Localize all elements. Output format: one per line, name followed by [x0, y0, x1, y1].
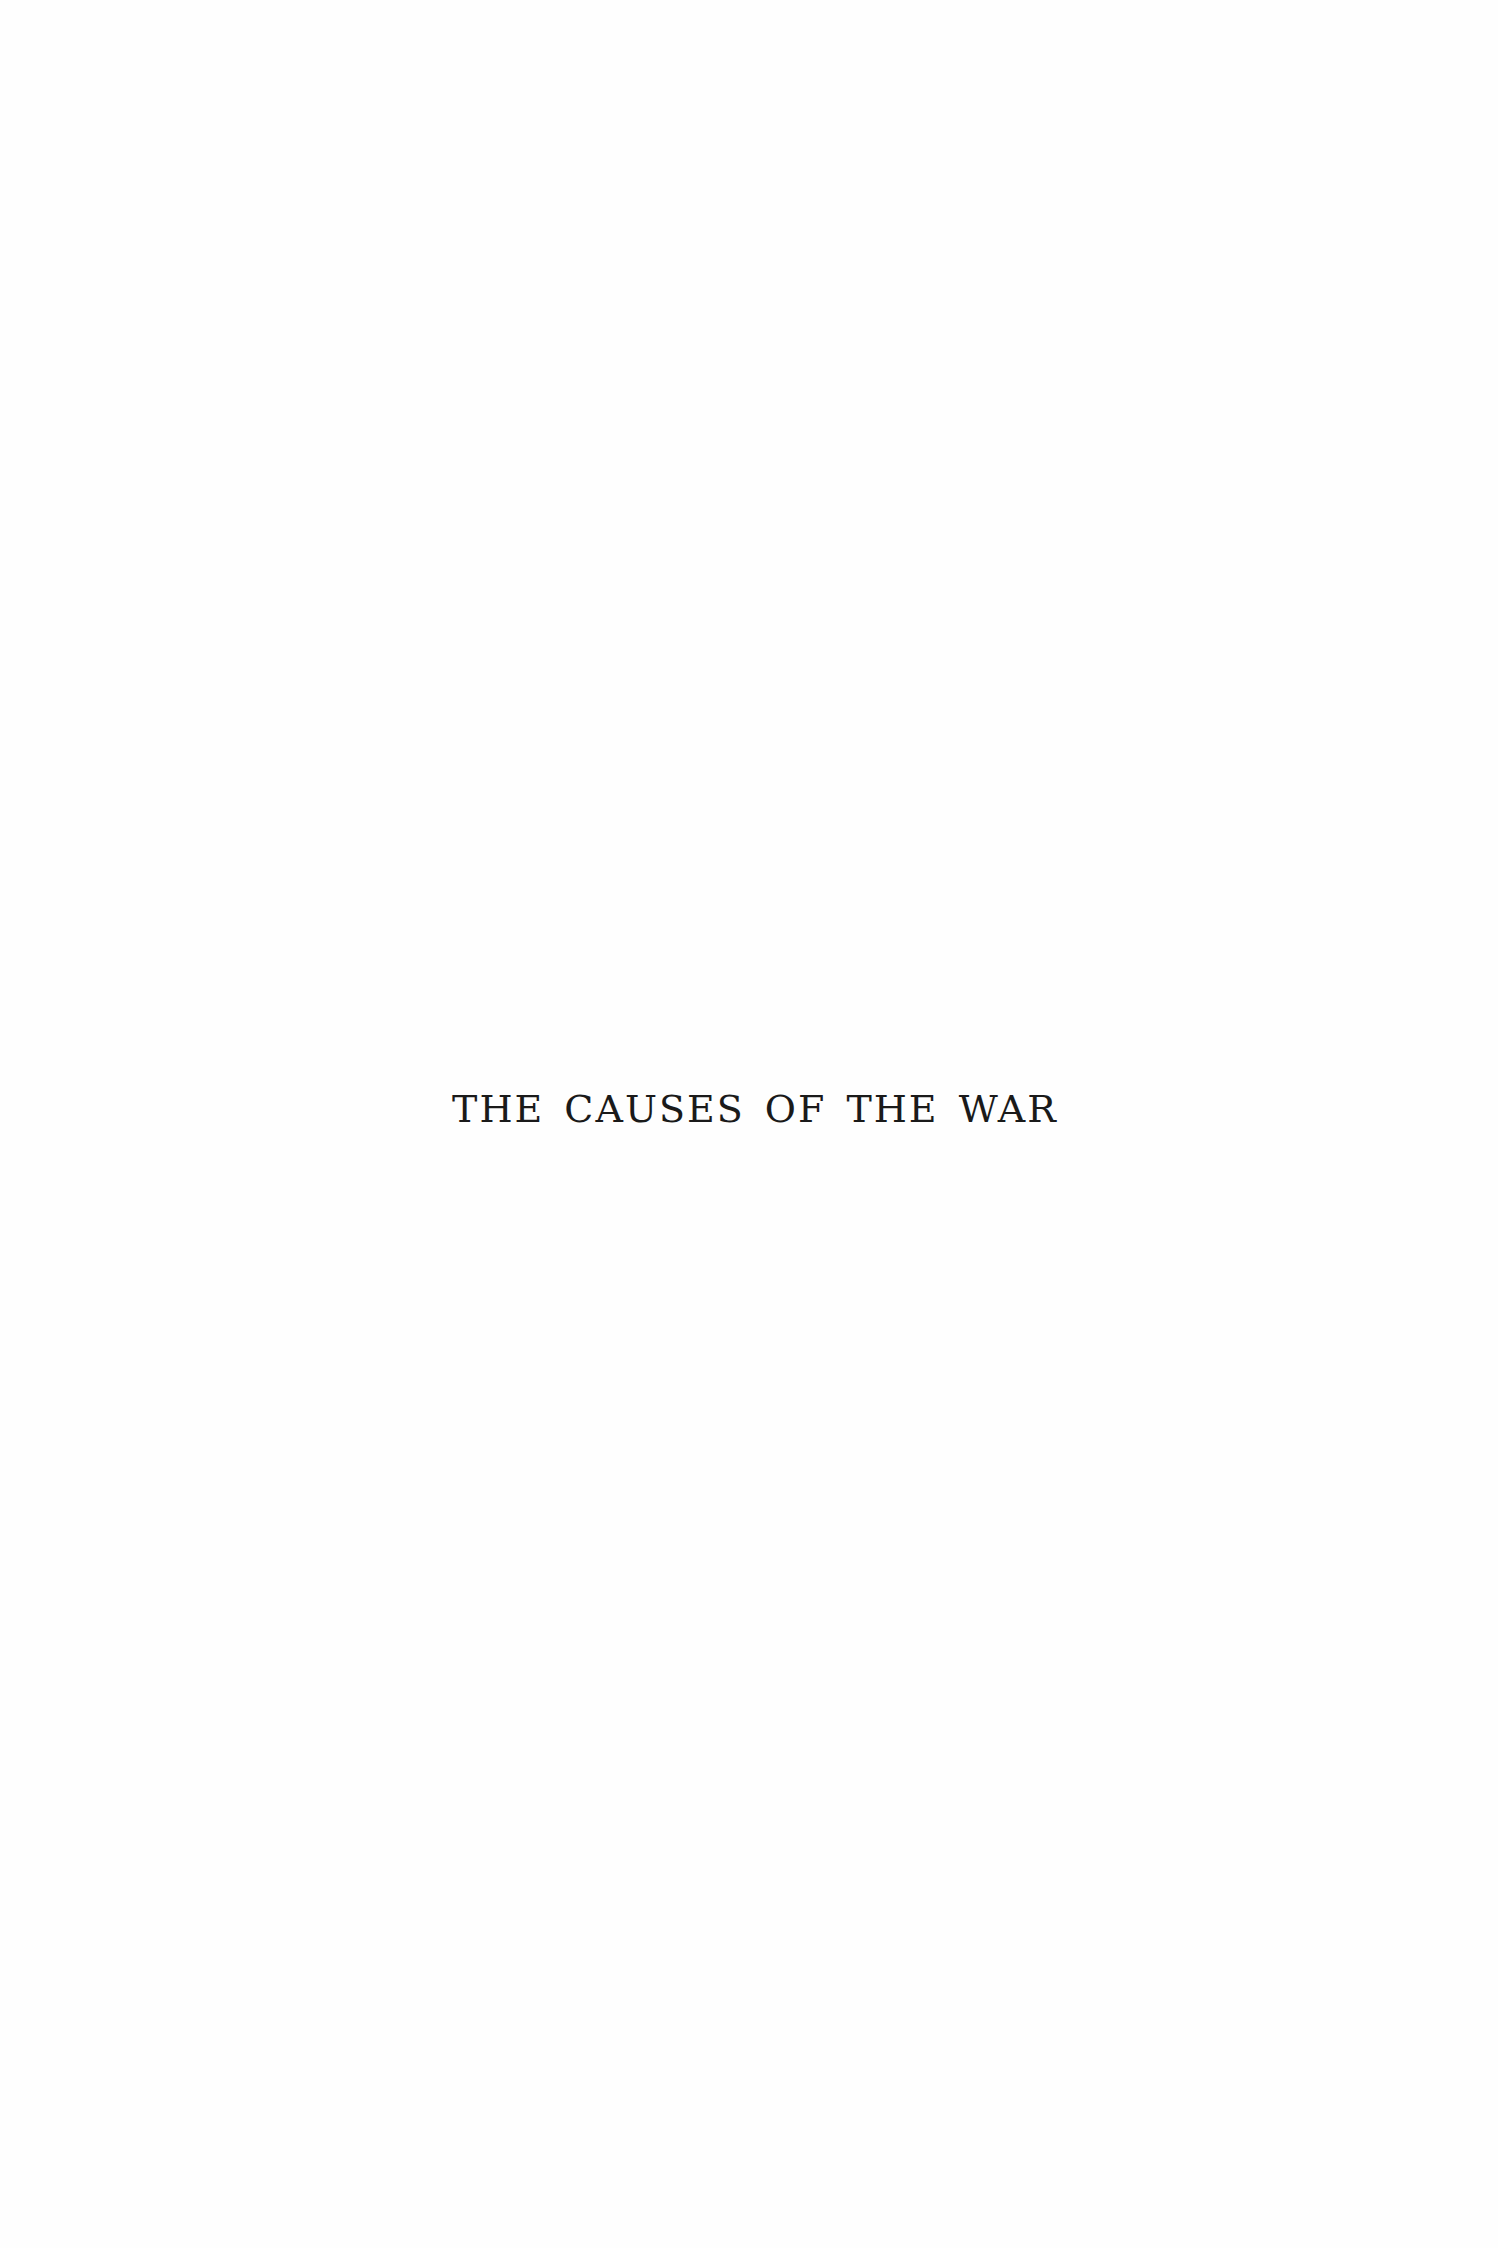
- half-title: THE CAUSES OF THE WAR: [0, 1086, 1498, 1132]
- book-page: THE CAUSES OF THE WAR: [0, 0, 1498, 2248]
